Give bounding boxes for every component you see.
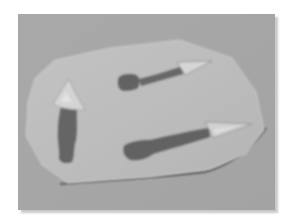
top-arrow-tail (118, 74, 140, 91)
photo-frame: Grayscale photo of an irregular paper cu… (0, 0, 287, 224)
photo-scene (18, 14, 275, 210)
photo (18, 14, 275, 210)
